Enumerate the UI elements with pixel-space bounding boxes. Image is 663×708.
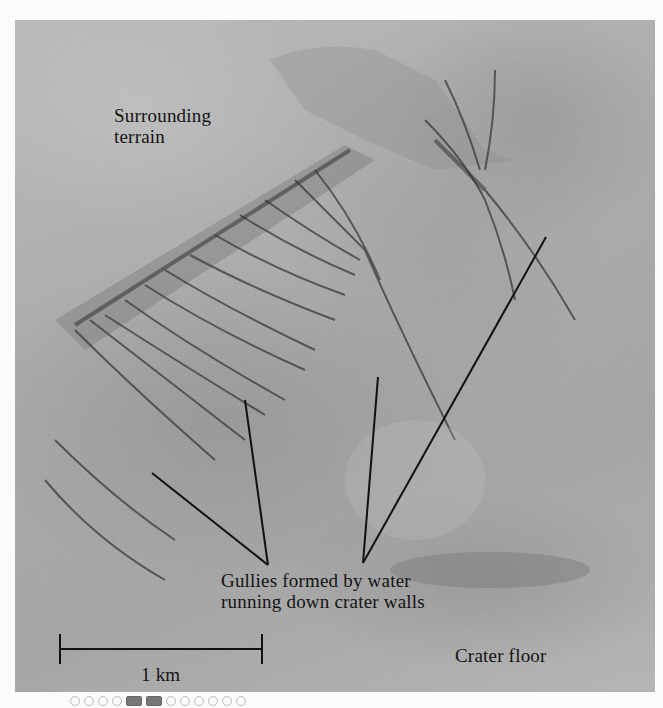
artifact-mark bbox=[84, 696, 94, 706]
artifact-mark bbox=[70, 696, 80, 706]
artifact-mark bbox=[98, 696, 108, 706]
label-line: Surrounding bbox=[114, 105, 211, 126]
artifact-mark bbox=[112, 696, 122, 706]
label-line: running down crater walls bbox=[221, 591, 425, 612]
artifact-mark bbox=[166, 696, 176, 706]
label-line: terrain bbox=[114, 126, 211, 147]
label-line: Gullies formed by water bbox=[221, 570, 425, 591]
label-scale-bar: 1 km bbox=[141, 664, 180, 685]
artifact-mark bbox=[194, 696, 204, 706]
artifact-mark bbox=[126, 696, 142, 706]
label-crater-floor: Crater floor bbox=[455, 645, 547, 666]
artifact-mark bbox=[236, 696, 246, 706]
artifact-mark bbox=[222, 696, 232, 706]
scan-artifact-strip bbox=[70, 695, 246, 707]
label-gullies: Gullies formed by water running down cra… bbox=[221, 570, 425, 612]
artifact-mark bbox=[180, 696, 190, 706]
label-surrounding-terrain: Surrounding terrain bbox=[114, 105, 211, 147]
artifact-mark bbox=[208, 696, 218, 706]
artifact-mark bbox=[146, 696, 162, 706]
